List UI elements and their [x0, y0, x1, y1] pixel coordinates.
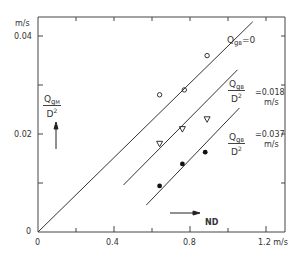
- s3-exp: 2: [238, 145, 242, 152]
- chart-canvas: [0, 0, 302, 257]
- s3-D: D: [231, 147, 238, 157]
- s2-B: B: [241, 84, 244, 90]
- s2-D: D: [231, 94, 238, 104]
- y-arrow-head: [54, 122, 58, 129]
- y-tick-label-0: 0: [26, 228, 31, 236]
- series-3-value: =0.037: [255, 130, 285, 139]
- filled-circle-marker: [180, 161, 185, 166]
- triangle-marker: [179, 127, 185, 133]
- x-arrow-head: [193, 211, 200, 215]
- filled-circle-marker: [157, 184, 162, 189]
- y-tick-label-0.04: 0.04: [14, 33, 32, 41]
- y-label-g: g: [51, 98, 55, 106]
- fit-lines: [38, 22, 253, 232]
- s3-g: g: [236, 136, 240, 144]
- y-axis-label: QgM D2: [43, 94, 61, 119]
- y-tick-label-0.02: 0.02: [14, 131, 32, 139]
- series-2-value: =0.018: [255, 88, 285, 97]
- series-2-annotation-fraction: QgB D2: [228, 79, 245, 104]
- data-markers: [157, 53, 211, 188]
- s2-exp: 2: [238, 92, 242, 99]
- y-label-M: M: [56, 99, 60, 105]
- y-label-exp: 2: [53, 107, 57, 114]
- s1-g: g: [234, 39, 238, 47]
- plot-frame: [38, 17, 285, 232]
- axis-ticks: [38, 17, 285, 232]
- s1-B: B: [239, 40, 242, 46]
- series-3-annotation-fraction: QgB D2: [228, 132, 245, 157]
- series-1-annotation: QgB=0: [227, 35, 255, 45]
- x-axis-label: ND: [205, 219, 218, 227]
- x-tick-label-0.8: 0.8: [183, 239, 196, 247]
- fit-line-series-3: [146, 108, 239, 205]
- filled-circle-marker: [203, 150, 208, 155]
- axis-arrows: [54, 122, 200, 215]
- series-3-unit: m/s: [264, 140, 279, 149]
- series-2-unit: m/s: [264, 98, 279, 107]
- y-unit-label: m/s: [15, 20, 30, 28]
- s3-B: B: [241, 137, 244, 143]
- x-tick-label-0: 0: [35, 239, 40, 247]
- s1-eq: =0: [242, 35, 255, 45]
- x-tick-label-1.2: 1.2 m/s: [258, 239, 288, 247]
- fit-line-series-1: [38, 22, 253, 232]
- x-tick-label-0.4: 0.4: [106, 239, 119, 247]
- open-circle-marker: [205, 53, 209, 57]
- triangle-marker: [204, 117, 210, 123]
- s2-g: g: [236, 83, 240, 91]
- open-circle-marker: [157, 93, 161, 97]
